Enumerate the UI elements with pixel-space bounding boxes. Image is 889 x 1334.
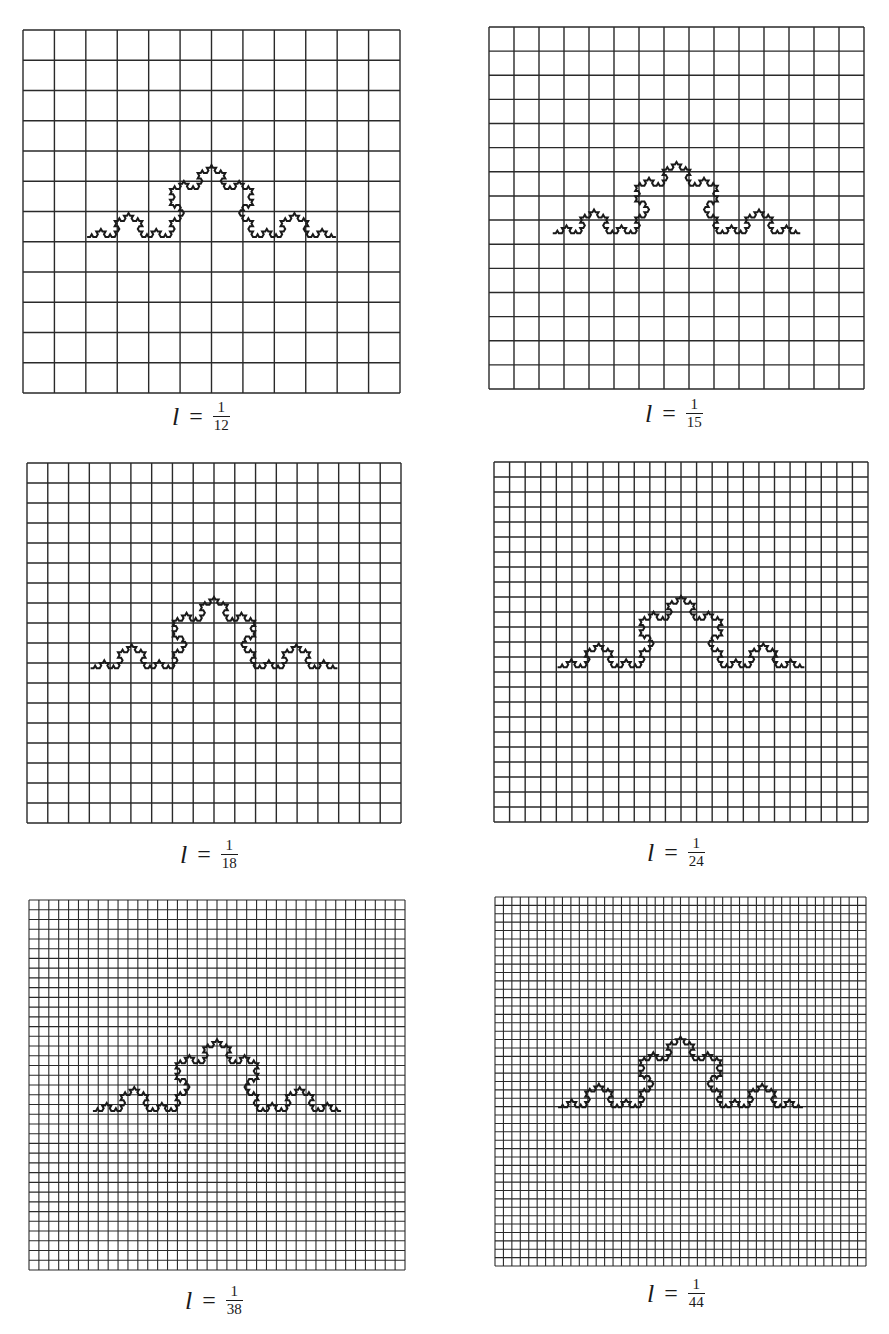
grid-with-koch-curve bbox=[495, 897, 866, 1266]
fraction-denominator: 38 bbox=[226, 1300, 243, 1317]
caption-equals: = bbox=[662, 400, 676, 427]
caption-l-44: l = 1 44 bbox=[647, 1277, 705, 1310]
caption-l-12: l = 1 12 bbox=[172, 400, 230, 433]
caption-l-15: l = 1 15 bbox=[645, 397, 703, 430]
grid-with-koch-curve bbox=[29, 900, 405, 1270]
grid-with-koch-curve bbox=[494, 462, 868, 822]
fraction-denominator: 44 bbox=[688, 1293, 705, 1310]
caption-fraction: 1 38 bbox=[226, 1284, 243, 1317]
fraction-denominator: 12 bbox=[213, 416, 230, 433]
grid-lines bbox=[495, 897, 866, 1266]
caption-l-18: l = 1 18 bbox=[180, 838, 238, 871]
fraction-denominator: 15 bbox=[686, 413, 703, 430]
grid-panel-12 bbox=[23, 30, 400, 393]
caption-equals: = bbox=[664, 839, 678, 866]
caption-variable: l bbox=[645, 399, 652, 429]
fraction-numerator: 1 bbox=[216, 400, 228, 416]
caption-equals: = bbox=[664, 1280, 678, 1307]
grid-panel-24 bbox=[494, 462, 868, 822]
caption-fraction: 1 24 bbox=[688, 836, 705, 869]
fraction-numerator: 1 bbox=[224, 838, 236, 854]
grid-with-koch-curve bbox=[23, 30, 400, 393]
caption-equals: = bbox=[197, 841, 211, 868]
caption-l-24: l = 1 24 bbox=[647, 836, 705, 869]
grid-lines bbox=[29, 900, 405, 1270]
fraction-numerator: 1 bbox=[229, 1284, 241, 1300]
caption-variable: l bbox=[647, 838, 654, 868]
caption-fraction: 1 44 bbox=[688, 1277, 705, 1310]
grid-panel-38 bbox=[29, 900, 405, 1270]
grid-lines bbox=[494, 462, 868, 822]
caption-equals: = bbox=[189, 403, 203, 430]
grid-lines bbox=[489, 27, 864, 389]
caption-fraction: 1 18 bbox=[221, 838, 238, 871]
grid-panel-18 bbox=[27, 463, 401, 823]
fraction-denominator: 24 bbox=[688, 852, 705, 869]
caption-l-38: l = 1 38 bbox=[185, 1284, 243, 1317]
grid-lines bbox=[27, 463, 401, 823]
grid-with-koch-curve bbox=[27, 463, 401, 823]
fraction-numerator: 1 bbox=[689, 397, 701, 413]
caption-equals: = bbox=[202, 1287, 216, 1314]
fraction-numerator: 1 bbox=[691, 836, 703, 852]
fraction-numerator: 1 bbox=[691, 1277, 703, 1293]
caption-variable: l bbox=[185, 1286, 192, 1316]
caption-fraction: 1 12 bbox=[213, 400, 230, 433]
koch-curve bbox=[553, 162, 801, 233]
caption-variable: l bbox=[172, 402, 179, 432]
grid-panel-44 bbox=[495, 897, 866, 1266]
fraction-denominator: 18 bbox=[221, 854, 238, 871]
caption-variable: l bbox=[647, 1279, 654, 1309]
caption-fraction: 1 15 bbox=[686, 397, 703, 430]
caption-variable: l bbox=[180, 840, 187, 870]
grid-lines bbox=[23, 30, 400, 393]
grid-with-koch-curve bbox=[489, 27, 864, 389]
grid-panel-15 bbox=[489, 27, 864, 389]
